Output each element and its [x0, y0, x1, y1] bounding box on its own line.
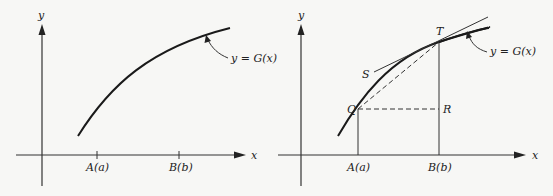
right-panel: y x A(a) B(b) Q T R S y = G(x) — [278, 9, 539, 186]
left-curve-label: y = G(x) — [230, 52, 277, 65]
left-x-axis-arrow-icon — [234, 152, 246, 159]
left-tick-b-label: B(b) — [168, 161, 193, 174]
right-point-s-label: S — [362, 68, 370, 81]
right-chord-qt — [358, 42, 439, 109]
right-curve-pointer — [469, 36, 487, 52]
left-y-axis-label: y — [37, 9, 45, 22]
right-y-axis-arrow-icon — [298, 24, 305, 35]
diagram-canvas: y x A(a) B(b) y = G(x) y x A(a) B(b) — [0, 0, 553, 196]
right-point-t-label: T — [436, 25, 445, 38]
left-y-axis-arrow-icon — [39, 24, 46, 35]
right-curve-g-end — [439, 28, 489, 42]
right-point-r-label: R — [442, 103, 451, 116]
left-curve-pointer — [208, 40, 228, 58]
right-x-axis-arrow-icon — [514, 152, 526, 159]
right-y-axis-label: y — [297, 9, 305, 22]
right-tick-a-label: A(a) — [346, 161, 370, 174]
right-tick-b-label: B(b) — [427, 161, 452, 174]
right-curve-label: y = G(x) — [489, 45, 536, 58]
left-x-axis-label: x — [251, 149, 258, 162]
right-point-q-label: Q — [347, 103, 356, 116]
right-tangent-line — [374, 17, 488, 72]
left-curve-pointer-arrow-icon — [205, 35, 212, 43]
left-tick-a-label: A(a) — [85, 161, 109, 174]
left-panel: y x A(a) B(b) y = G(x) — [16, 9, 277, 186]
right-curve-g — [338, 27, 489, 136]
right-x-axis-label: x — [532, 149, 539, 162]
left-curve-g — [78, 28, 230, 136]
